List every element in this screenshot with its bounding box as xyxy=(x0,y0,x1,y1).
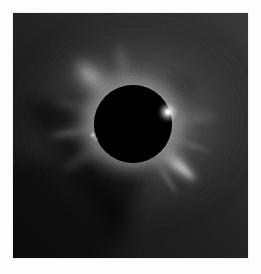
lunar-disk xyxy=(94,85,172,163)
prominence-bead-east xyxy=(91,133,94,136)
photo-plate xyxy=(13,13,248,258)
prominence-bead-east-2 xyxy=(95,138,97,140)
corona-image xyxy=(13,13,248,258)
bright-limb-point-west xyxy=(165,109,171,115)
eclipse-photograph-view xyxy=(0,0,261,274)
